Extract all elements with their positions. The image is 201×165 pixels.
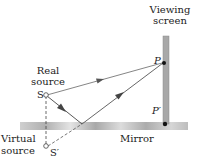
- arrow-icon: [96, 79, 104, 84]
- point-p-prime: [163, 122, 167, 126]
- label-p-prime: P′: [152, 106, 161, 116]
- real-source-point: [44, 93, 49, 98]
- real-label-line1: Real: [28, 66, 68, 76]
- mirror-label: Mirror: [120, 134, 154, 144]
- point-p: [162, 61, 166, 65]
- label-s-prime: S′: [50, 148, 59, 158]
- real-label-line2: source: [28, 77, 68, 87]
- label-s: S: [37, 90, 44, 100]
- label-p: P: [154, 56, 161, 66]
- real-source-label: Real source: [28, 66, 68, 87]
- viewing-label-line2: screen: [142, 16, 198, 26]
- virtual-label-line1: Virtual: [1, 134, 45, 144]
- viewing-label-line1: Viewing: [142, 5, 198, 15]
- virtual-label-line2: source: [1, 146, 45, 156]
- viewing-screen-label: Viewing screen: [142, 5, 198, 26]
- virtual-source-label: Virtual source: [1, 134, 45, 156]
- viewing-screen: [163, 36, 169, 124]
